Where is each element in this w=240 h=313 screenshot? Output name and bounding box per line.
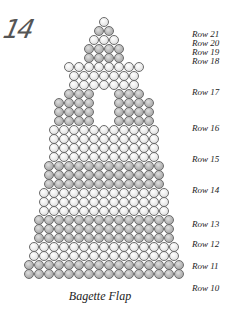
grey-bead [24, 269, 34, 279]
row-label: Row 15 [192, 155, 219, 164]
grey-bead [124, 269, 134, 279]
grey-bead [44, 269, 54, 279]
grey-bead [64, 269, 74, 279]
grey-bead [144, 269, 154, 279]
row-label: Row 12 [192, 240, 219, 249]
grey-bead [174, 269, 184, 279]
row-label: Row 11 [192, 262, 219, 271]
row-label: Row 18 [192, 57, 219, 66]
row-label: Row 16 [192, 124, 219, 133]
row-label: Row 14 [192, 186, 219, 195]
grey-bead [74, 269, 84, 279]
grey-bead [134, 269, 144, 279]
diagram-caption: Bagette Flap [0, 289, 200, 304]
page-number: 14 [1, 14, 34, 44]
row-label: Row 17 [192, 88, 219, 97]
grey-bead [94, 269, 104, 279]
row-label: Row 13 [192, 220, 219, 229]
grey-bead [34, 269, 44, 279]
grey-bead [84, 269, 94, 279]
grey-bead [104, 269, 114, 279]
grey-bead [154, 269, 164, 279]
grey-bead [164, 269, 174, 279]
beading-pattern-diagram: 14 Row 21Row 20Row 19Row 18Row 17Row 16R… [0, 0, 240, 313]
light-bead [99, 80, 109, 90]
grey-bead [114, 269, 124, 279]
grey-bead [54, 269, 64, 279]
